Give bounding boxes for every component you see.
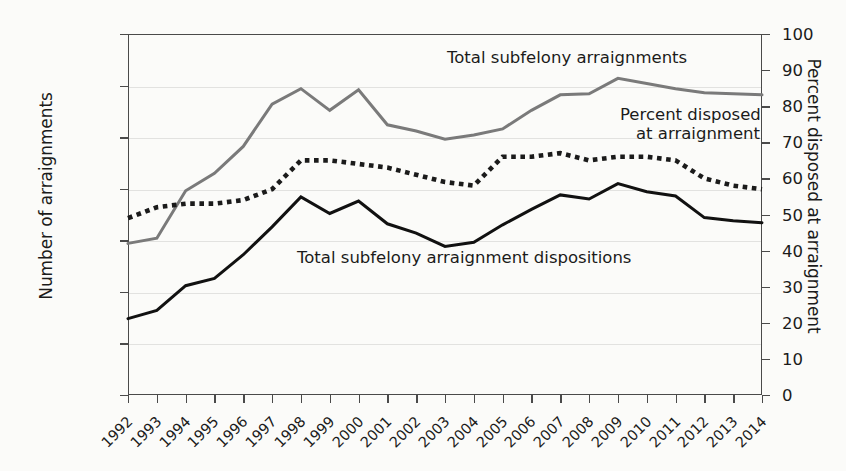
x-axis-tickmark (589, 395, 590, 403)
y-axis-right-tickmark (762, 178, 770, 179)
x-axis-tickmark (445, 395, 446, 403)
y-axis-right-tickmark (762, 323, 770, 324)
x-axis-tick-label: 1995 (185, 413, 222, 450)
x-axis-tick-label: 1997 (242, 413, 279, 450)
x-axis-tick-label: 1996 (214, 413, 251, 450)
y-axis-right-tick-label: 70 (782, 133, 842, 152)
y-axis-right-tickmark (762, 34, 770, 35)
chart-container: Number of arraignments Percent disposed … (0, 0, 846, 471)
y-axis-right-tick-label: 0 (782, 386, 842, 405)
series-label-percent-disposed: Percent disposed at arraignment (620, 105, 760, 144)
y-axis-right-tickmark (762, 106, 770, 107)
y-axis-left-tickmark (120, 343, 128, 344)
x-axis-tick-label: 1993 (127, 413, 164, 450)
y-axis-right-tick-label: 50 (782, 205, 842, 224)
x-axis-tick-label: 2002 (386, 413, 423, 450)
x-axis-tickmark (704, 395, 705, 403)
x-axis-tick-label: 2003 (415, 413, 452, 450)
x-axis-tick-label: 1994 (156, 413, 193, 450)
x-axis-tickmark (733, 395, 734, 403)
x-axis-tick-label: 1992 (98, 413, 135, 450)
y-axis-right-tick-label: 100 (782, 25, 842, 44)
gridline (129, 293, 761, 294)
x-axis-tickmark (647, 395, 648, 403)
x-axis-tick-label: 2014 (732, 413, 769, 450)
series-label-total-subfelony-arraignment-dispositions: Total subfelony arraignment dispositions (297, 248, 631, 267)
x-axis-tickmark (474, 395, 475, 403)
y-axis-right-tick-label: 10 (782, 349, 842, 368)
x-axis-tickmark (330, 395, 331, 403)
gridline (129, 190, 761, 191)
x-axis-tickmark (387, 395, 388, 403)
series-label-percent-disposed-line1: Percent disposed (620, 105, 760, 124)
y-axis-right-tickmark (762, 359, 770, 360)
y-axis-left-tickmark (120, 395, 128, 396)
y-axis-left-tickmark (120, 86, 128, 87)
x-axis-tick-label: 2010 (617, 413, 654, 450)
x-axis-tick-label: 2004 (444, 413, 481, 450)
y-axis-right-title: Percent disposed at arraignment (804, 46, 824, 346)
x-axis-tickmark (186, 395, 187, 403)
x-axis-tickmark (214, 395, 215, 403)
x-axis-tickmark (301, 395, 302, 403)
x-axis-tick-label: 1998 (271, 413, 308, 450)
y-axis-left-tickmark (120, 292, 128, 293)
y-axis-right-tickmark (762, 215, 770, 216)
x-axis-tickmark (157, 395, 158, 403)
x-axis-tickmark (618, 395, 619, 403)
x-axis-tick-label: 2001 (358, 413, 395, 450)
x-axis-tickmark (272, 395, 273, 403)
y-axis-right-tick-label: 90 (782, 61, 842, 80)
y-axis-left-tickmark (120, 189, 128, 190)
y-axis-right-tickmark (762, 287, 770, 288)
series-label-total-subfelony-arraignments: Total subfelony arraignments (447, 48, 687, 67)
x-axis-tick-label: 2011 (646, 413, 683, 450)
x-axis-tick-label: 2006 (502, 413, 539, 450)
plot-area (128, 34, 762, 395)
x-axis-tick-label: 2000 (329, 413, 366, 450)
x-axis-tick-label: 2008 (559, 413, 596, 450)
x-axis-tick-label: 2005 (473, 413, 510, 450)
x-axis-tickmark (128, 395, 129, 403)
gridline (129, 344, 761, 345)
series-label-percent-disposed-line2: at arraignment (620, 124, 760, 143)
y-axis-left-title: Number of arraignments (36, 46, 56, 346)
y-axis-left-tickmark (120, 137, 128, 138)
y-axis-right-tickmark (762, 142, 770, 143)
y-axis-right-tick-label: 20 (782, 313, 842, 332)
y-axis-left-tickmark (120, 34, 128, 35)
y-axis-left-tickmark (120, 240, 128, 241)
x-axis-tickmark (560, 395, 561, 403)
gridline (129, 87, 761, 88)
x-axis-tickmark (676, 395, 677, 403)
x-axis-tick-label: 1999 (300, 413, 337, 450)
y-axis-right-tick-label: 80 (782, 97, 842, 116)
x-axis-tick-label: 2012 (675, 413, 712, 450)
y-axis-right-tick-label: 40 (782, 241, 842, 260)
x-axis-tickmark (503, 395, 504, 403)
x-axis-tickmark (243, 395, 244, 403)
x-axis-tickmark (416, 395, 417, 403)
gridline (129, 241, 761, 242)
x-axis-tickmark (359, 395, 360, 403)
y-axis-right-tickmark (762, 251, 770, 252)
x-axis-tickmark (531, 395, 532, 403)
y-axis-right-tick-label: 60 (782, 169, 842, 188)
y-axis-right-tick-label: 30 (782, 277, 842, 296)
y-axis-right-tickmark (762, 70, 770, 71)
x-axis-tick-label: 2009 (588, 413, 625, 450)
x-axis-tick-label: 2007 (531, 413, 568, 450)
x-axis-tickmark (762, 395, 763, 403)
x-axis-tick-label: 2013 (703, 413, 740, 450)
